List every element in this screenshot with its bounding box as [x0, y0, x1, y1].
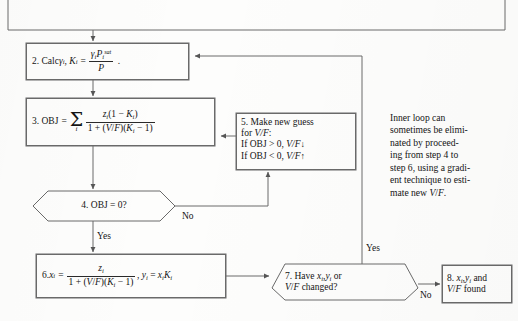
- step-8-line-1: 8. xi,yi and: [447, 273, 487, 285]
- annotation-line-1: sometimes be elimi-: [390, 124, 502, 136]
- step-5-vf-2: V/F: [286, 139, 300, 149]
- step-5-content: 5. Make new guess for V/F: If OBJ > 0, V…: [237, 114, 314, 162]
- step-7-content: 7. Have xi,yi or V/F changed?: [283, 271, 342, 294]
- annotation-line-5: ent technique to esti-: [390, 174, 502, 186]
- step-2-denominator: P: [89, 62, 113, 74]
- up-arrow-icon: ↑: [300, 151, 305, 161]
- top-partial-box-outline: [8, 0, 505, 30]
- step-5-vf-1: V/F: [254, 128, 268, 138]
- annotation-line-4: step 6, using a gradi-: [390, 162, 502, 174]
- edge-label-no-step4: No: [182, 211, 194, 221]
- edge-label-yes-step4: Yes: [97, 231, 111, 241]
- step-6-x-sub: i: [53, 272, 55, 280]
- step-6-node[interactable]: 6. xi = zi 1 + (V/F)(Ki − 1) , yi = xiKi: [36, 254, 226, 298]
- summation-symbol: Σ i: [70, 111, 83, 132]
- step-8-node[interactable]: 8. xi,yi and V/F found: [442, 265, 512, 303]
- step-2-trailing: .: [118, 56, 120, 67]
- step-2-k-sub: i: [76, 58, 78, 66]
- down-arrow-icon: ↓: [300, 139, 305, 149]
- step-3-node[interactable]: 3. OBJ = Σ i zi(1 − Ki) 1 + (V/F)(Ki − 1…: [26, 98, 215, 146]
- edge-label-yes-step7: Yes: [366, 243, 380, 253]
- step-3-fraction: zi(1 − Ki) 1 + (V/F)(Ki − 1): [86, 109, 155, 134]
- step-6-second-equation: , yi = xiKi: [137, 270, 172, 282]
- step-3-equals: =: [61, 116, 66, 127]
- step-2-content: 2. Calc γi, Ki = γiPisat P .: [27, 49, 188, 74]
- step-4-label: 4. OBJ = 0?: [33, 200, 175, 211]
- inner-loop-annotation: Inner loop can sometimes be elimi- nated…: [390, 112, 502, 199]
- step-2-prefix: 2. Calc: [32, 56, 59, 67]
- step-8-content: 8. xi,yi and V/F found: [443, 273, 487, 296]
- step-2-node[interactable]: 2. Calc γi, Ki = γiPisat P .: [26, 43, 189, 80]
- step-2-fraction: γiPisat P: [89, 49, 113, 74]
- step-5-line-2: for V/F:: [241, 128, 314, 139]
- step-6-fraction: zi 1 + (V/F)(Ki − 1): [67, 263, 136, 288]
- step-6-numerator: zi: [67, 263, 136, 276]
- step-5-node[interactable]: 5. Make new guess for V/F: If OBJ > 0, V…: [236, 113, 356, 170]
- annotation-line-2: nated by proceed-: [390, 137, 502, 149]
- step-5-vf-3: V/F: [286, 151, 300, 161]
- step-5-line-3: If OBJ > 0, V/F↓: [241, 139, 314, 150]
- edge-step4-no-to-step5: [175, 172, 268, 206]
- step-6-content: 6. xi = zi 1 + (V/F)(Ki − 1) , yi = xiKi: [37, 263, 225, 288]
- step-3-content: 3. OBJ = Σ i zi(1 − Ki) 1 + (V/F)(Ki − 1…: [27, 109, 214, 134]
- step-7-node[interactable]: 7. Have xi,yi or V/F changed?: [283, 264, 407, 300]
- step-2-numerator: γiPisat: [89, 49, 113, 62]
- step-5-line-1: 5. Make new guess: [241, 117, 314, 128]
- step-3-denominator: 1 + (V/F)(Ki − 1): [86, 123, 155, 135]
- step-4-node[interactable]: 4. OBJ = 0?: [33, 191, 175, 221]
- step-8-line-2: V/F found: [447, 284, 487, 295]
- flowchart-canvas: 2. Calc γi, Ki = γiPisat P . 3. OBJ = Σ …: [0, 0, 518, 321]
- step-2-equals: =: [80, 56, 85, 67]
- step-3-numerator: zi(1 − Ki): [86, 109, 155, 122]
- step-5-line-4: If OBJ < 0, V/F↑: [241, 151, 314, 162]
- annotation-line-6: mate new V/F.: [390, 187, 502, 199]
- annotation-line-0: Inner loop can: [390, 112, 502, 124]
- annotation-line-3: ing from step 4 to: [390, 149, 502, 161]
- step-7-line-1: 7. Have xi,yi or: [285, 271, 342, 283]
- step-3-prefix: 3. OBJ: [32, 116, 58, 127]
- step-6-denominator: 1 + (V/F)(Ki − 1): [67, 277, 136, 289]
- step-7-line-2: V/F changed?: [285, 282, 342, 293]
- edge-label-no-step7: No: [420, 290, 432, 300]
- step-6-equals: =: [58, 270, 63, 281]
